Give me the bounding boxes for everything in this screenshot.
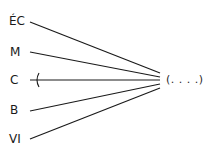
edge-vi — [30, 88, 160, 139]
edge-ec — [30, 22, 160, 73]
edge-b — [30, 84, 160, 111]
source-label-m: M — [10, 46, 20, 58]
source-label-ec: ÉC — [9, 15, 25, 27]
source-label-c: C — [10, 74, 18, 86]
edge-m — [30, 52, 160, 77]
source-label-b: B — [10, 104, 18, 116]
source-label-vi: VI — [9, 133, 21, 145]
target-label: (. . . .) — [166, 74, 204, 85]
